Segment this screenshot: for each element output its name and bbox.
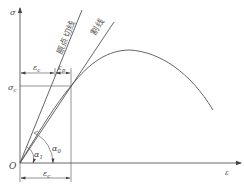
origin-tangent-label: 原点切线 bbox=[55, 19, 78, 56]
alpha-0-arc-end bbox=[34, 131, 38, 133]
epsilon-c-top-label: εc bbox=[33, 63, 40, 73]
y-axis-label: σ bbox=[10, 8, 16, 17]
sigma-c-label: σc bbox=[8, 83, 17, 93]
epsilon-c-bottom-label: εc bbox=[43, 169, 50, 179]
alpha-1-label: α1 bbox=[34, 150, 43, 160]
epsilon-p-label: εp bbox=[58, 64, 66, 74]
x-axis-label: ε bbox=[225, 169, 229, 177]
stress-strain-curve bbox=[20, 50, 213, 163]
alpha-0-label: α0 bbox=[52, 144, 61, 154]
origin-label: O bbox=[9, 161, 17, 171]
secant-label: 割线 bbox=[88, 16, 106, 37]
stress-strain-diagram: σ ε O σc εc εp εc α1 α0 原点切线 割线 bbox=[0, 0, 244, 190]
